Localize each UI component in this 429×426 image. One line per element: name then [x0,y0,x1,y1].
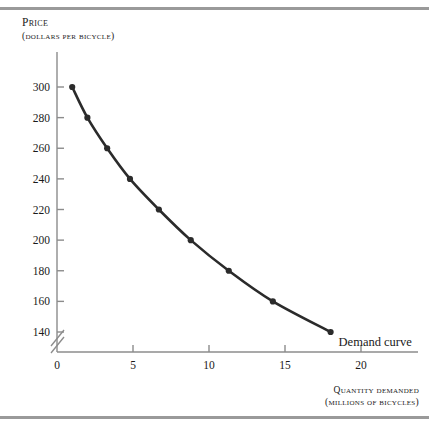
x-tick-label: 10 [203,359,215,371]
y-tick-label: 160 [16,295,50,307]
data-point-markers [69,84,334,335]
x-tick-label: 20 [355,359,367,371]
y-tick-label: 180 [16,265,50,277]
y-tick-label: 300 [16,81,50,93]
demand-curve-figure: Price (dollars per bicycle) Quantity dem… [0,0,429,426]
y-tick-label: 280 [16,112,50,124]
y-tick-label: 220 [16,204,50,216]
axis-lines [57,52,418,352]
y-tick-label: 140 [16,326,50,338]
demand-curve-label: Demand curve [339,335,412,350]
demand-curve-line [72,87,330,332]
tick-marks [57,87,361,352]
x-tick-label: 0 [54,359,60,371]
x-tick-label: 5 [130,359,136,371]
y-tick-label: 260 [16,142,50,154]
x-tick-label: 15 [279,359,291,371]
y-tick-label: 240 [16,173,50,185]
y-tick-label: 200 [16,234,50,246]
